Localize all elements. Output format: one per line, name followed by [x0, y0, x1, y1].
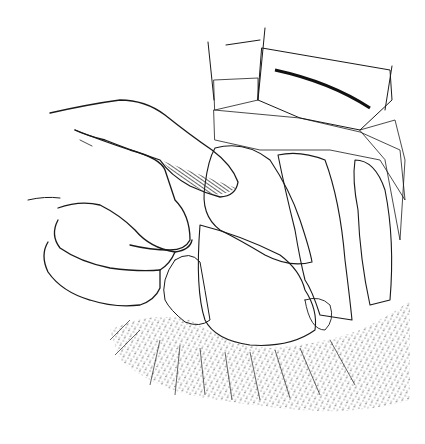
tubular-organ-center: [278, 153, 352, 320]
rounded-organ: [198, 225, 331, 345]
stippled-tissue: [110, 300, 410, 411]
abdominal-wall: [214, 78, 405, 240]
tubular-organ-right: [354, 160, 392, 305]
illustration-svg: [0, 0, 425, 444]
surgical-illustration: Black-and-white surgical line illustrati…: [0, 0, 425, 444]
hand: [28, 100, 238, 306]
fatty-mass: [204, 146, 312, 264]
